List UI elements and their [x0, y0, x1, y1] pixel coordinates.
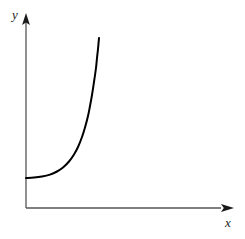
- x-axis-arrowhead-icon: [221, 204, 234, 212]
- x-axis-label: x: [225, 216, 231, 229]
- graph-figure: y x: [0, 0, 245, 239]
- data-series-group: [26, 38, 99, 178]
- y-axis-label: y: [12, 8, 18, 21]
- axes-group: [22, 13, 234, 212]
- exponential-curve-path: [26, 38, 99, 178]
- plot-canvas: [0, 0, 245, 239]
